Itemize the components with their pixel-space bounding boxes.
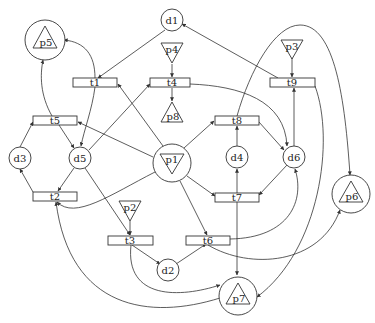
transition-t4[interactable]: t4 xyxy=(150,77,190,88)
transition-t8[interactable]: t8 xyxy=(215,115,259,126)
place-p7[interactable]: p7 xyxy=(219,277,257,315)
arc-t9-p7 xyxy=(257,86,323,297)
arc-t6-p6 xyxy=(208,210,340,259)
transition-label: t3 xyxy=(125,235,135,246)
place-p4[interactable]: p4 xyxy=(161,43,183,63)
place-p3[interactable]: p3 xyxy=(281,40,303,59)
place-label: p5 xyxy=(40,37,53,48)
place-label: p4 xyxy=(166,44,179,55)
arc-p1-t8 xyxy=(184,121,214,148)
place-d1[interactable]: d1 xyxy=(161,9,183,31)
transition-label: t7 xyxy=(232,192,242,203)
place-label: p2 xyxy=(124,202,137,213)
transition-t6[interactable]: t6 xyxy=(186,235,230,246)
arc-t6-d6 xyxy=(230,169,298,239)
arc-d2-t6 xyxy=(176,244,206,264)
place-p6[interactable]: p6 xyxy=(332,175,370,213)
place-p2[interactable]: p2 xyxy=(119,201,141,221)
place-label: d4 xyxy=(231,152,244,163)
transition-t5[interactable]: t5 xyxy=(33,115,77,126)
place-d2[interactable]: d2 xyxy=(157,259,179,281)
transition-t7[interactable]: t7 xyxy=(215,192,259,203)
place-label: d1 xyxy=(166,15,179,26)
arc-t5-d5 xyxy=(59,125,74,148)
arc-p7-t2 xyxy=(56,202,220,308)
arc-d3-t5 xyxy=(20,122,33,147)
transition-t1[interactable]: t1 xyxy=(73,77,117,88)
place-label: p3 xyxy=(286,41,299,52)
place-label: p8 xyxy=(167,111,180,122)
transition-label: t4 xyxy=(167,77,177,88)
transition-t9[interactable]: t9 xyxy=(270,77,315,88)
transition-label: t9 xyxy=(287,77,297,88)
arc-p1-t6 xyxy=(180,181,207,235)
transition-t2[interactable]: t2 xyxy=(33,191,77,202)
transition-label: t1 xyxy=(90,77,100,88)
place-label: d6 xyxy=(288,152,301,163)
places: d1 d2 d3 d4 d5 d6 p1 xyxy=(9,9,370,315)
place-label: d5 xyxy=(74,153,87,164)
place-p1[interactable]: p1 xyxy=(153,144,191,182)
arc-t5-p5 xyxy=(41,60,52,116)
arc-t1-p5 xyxy=(64,40,95,78)
place-d6[interactable]: d6 xyxy=(283,146,305,168)
transition-label: t2 xyxy=(50,191,60,202)
arc-t1-d5 xyxy=(81,87,95,146)
place-d4[interactable]: d4 xyxy=(226,146,248,168)
place-label: p6 xyxy=(346,191,359,202)
arc-d1-t1 xyxy=(98,30,165,78)
transition-label: t6 xyxy=(203,235,213,246)
arc-p1-t1 xyxy=(118,84,163,146)
place-label: d2 xyxy=(162,265,175,276)
place-d5[interactable]: d5 xyxy=(69,147,91,169)
arc-d6-t7 xyxy=(259,165,287,195)
place-label: d3 xyxy=(14,153,27,164)
arc-p1-t7 xyxy=(187,176,215,196)
place-d3[interactable]: d3 xyxy=(9,147,31,169)
place-label: p7 xyxy=(233,293,246,304)
place-label: p1 xyxy=(166,154,179,165)
arc-d5-t2 xyxy=(58,168,74,191)
arc-t9-d1 xyxy=(182,24,278,78)
arc-t2-d3 xyxy=(20,169,33,192)
transition-label: t5 xyxy=(50,115,60,126)
arc-t8-d6 xyxy=(259,122,284,150)
place-p5[interactable]: p5 xyxy=(25,20,65,60)
arc-t3-d2 xyxy=(132,245,160,264)
transition-t3[interactable]: t3 xyxy=(108,235,153,246)
place-p8[interactable]: p8 xyxy=(161,102,183,122)
arc-d5-t4 xyxy=(89,84,150,150)
petri-net-diagram: t1 t2 t3 t4 t5 t6 t7 t8 xyxy=(0,0,375,323)
transition-label: t8 xyxy=(232,115,242,126)
